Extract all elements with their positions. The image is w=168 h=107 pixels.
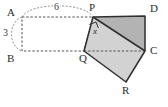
vertex-label-a: A [7, 7, 15, 18]
dashed-rectangle-apqb [22, 17, 93, 51]
vertex-label-b: B [7, 53, 14, 64]
angle-label-x: x [93, 27, 97, 36]
vertex-label-r: R [122, 85, 129, 96]
geometry-figure: A P D C R Q B 6 3 x [0, 0, 168, 107]
vertex-label-q: Q [79, 53, 87, 64]
vertex-label-c: C [150, 45, 157, 56]
vertex-label-p: P [89, 2, 95, 13]
vertex-label-d: D [150, 3, 158, 14]
dimension-label-6: 6 [53, 2, 60, 12]
dimension-label-3: 3 [2, 28, 9, 38]
dimension-arc-left [12, 17, 23, 51]
